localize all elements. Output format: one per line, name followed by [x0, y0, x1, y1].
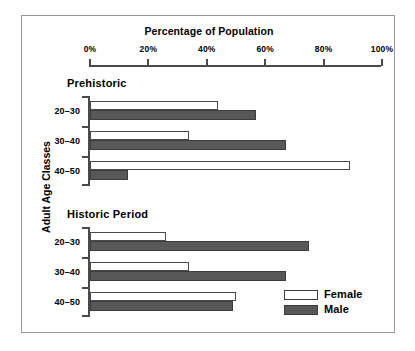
- bar-male: [90, 271, 286, 281]
- x-axis-tick: [381, 59, 383, 66]
- category-tick: [82, 257, 90, 259]
- category-tick: [82, 126, 90, 128]
- category-label: 20–30: [54, 106, 80, 116]
- x-axis-line: [89, 65, 381, 67]
- category-label: 40–50: [54, 297, 80, 307]
- bar-female: [90, 131, 189, 140]
- x-axis-tick-label: 40%: [198, 44, 216, 54]
- category-label: 40–50: [54, 166, 80, 176]
- x-axis-tick: [147, 59, 149, 66]
- x-axis-tick: [206, 59, 208, 66]
- legend-label-female: Female: [324, 288, 363, 300]
- legend-swatch-female-icon: [284, 290, 318, 300]
- bar-female: [90, 232, 166, 241]
- bar-female: [90, 262, 189, 271]
- legend-item-female: Female: [284, 288, 384, 303]
- legend-item-male: Male: [284, 303, 384, 318]
- category-axis-cap: [82, 184, 90, 186]
- chart-group-title: Historic Period: [67, 208, 148, 220]
- chart-group: Prehistoric20–3030–4040–50: [22, 77, 396, 190]
- bar-female: [90, 101, 218, 110]
- category-axis-cap: [82, 227, 90, 229]
- chart-group-title: Prehistoric: [67, 77, 127, 89]
- bar-male: [90, 301, 233, 311]
- x-axis-tick: [89, 59, 91, 66]
- category-axis-cap: [82, 315, 90, 317]
- chart-figure: Percentage of Population Adult Age Class…: [21, 15, 395, 333]
- bar-female: [90, 292, 236, 301]
- legend-swatch-male-icon: [284, 305, 318, 315]
- x-axis-tick: [264, 59, 266, 66]
- category-label: 30–40: [54, 267, 80, 277]
- chart-legend: Female Male: [284, 288, 384, 318]
- x-axis-tick-label: 60%: [256, 44, 274, 54]
- category-tick: [82, 156, 90, 158]
- category-label: 20–30: [54, 237, 80, 247]
- bar-male: [90, 140, 286, 150]
- category-label: 30–40: [54, 136, 80, 146]
- chart-title: Percentage of Population: [22, 25, 396, 37]
- x-axis-tick-label: 100%: [371, 44, 394, 54]
- x-axis-tick: [323, 59, 325, 66]
- bar-male: [90, 170, 128, 180]
- x-axis-tick-label: 80%: [315, 44, 333, 54]
- bar-female: [90, 161, 350, 170]
- category-axis-cap: [82, 96, 90, 98]
- x-axis-tick-label: 20%: [140, 44, 158, 54]
- legend-label-male: Male: [324, 303, 349, 315]
- bar-male: [90, 241, 309, 251]
- bar-male: [90, 110, 256, 120]
- category-tick: [82, 287, 90, 289]
- x-axis-tick-label: 0%: [84, 44, 97, 54]
